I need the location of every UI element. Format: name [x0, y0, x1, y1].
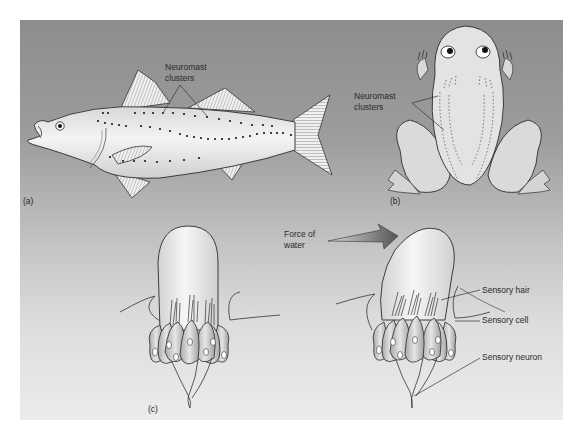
panel-label-a: (a) — [23, 196, 33, 207]
force-of-water-label: Force of water — [284, 229, 315, 251]
fish-neuromast-callout: Neuromast clusters — [165, 62, 207, 84]
sensory-neuron-label: Sensory neuron — [482, 352, 542, 363]
fish-illustration — [28, 70, 332, 198]
sensory-cell-label: Sensory cell — [482, 315, 528, 326]
neuromast-at-rest — [120, 226, 280, 408]
sensory-hair-label: Sensory hair — [482, 285, 530, 296]
frog-neuromast-callout: Neuromast clusters — [354, 91, 396, 113]
panel-label-c: (c) — [148, 404, 158, 415]
panel-label-b: (b) — [390, 196, 400, 207]
frog-illustration — [388, 26, 550, 194]
neuromast-deflected — [328, 224, 505, 408]
force-arrow-icon — [328, 224, 398, 249]
diagram-artwork — [0, 0, 580, 436]
